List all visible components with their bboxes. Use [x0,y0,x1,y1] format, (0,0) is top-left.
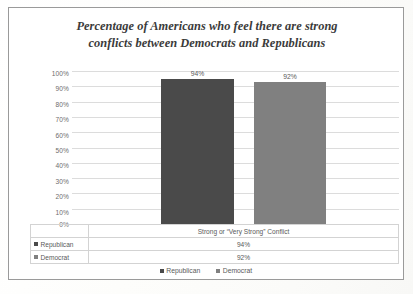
y-tick-label: 90% [29,85,69,92]
gridline [72,163,399,164]
gridline [72,71,399,72]
y-tick-label: 50% [29,147,69,154]
table-value-democrat: 92% [89,251,399,264]
chart-title: Percentage of Americans who feel there a… [39,18,375,52]
gridline [72,178,399,179]
table-row: Republican 94% [31,238,399,251]
y-tick-label: 70% [29,116,69,123]
y-tick-label: 40% [29,162,69,169]
gridline [72,193,399,194]
gridline [72,86,399,87]
y-axis: 100% 90% 80% 70% 60% 50% 40% 30% 20% 10%… [27,70,69,230]
y-tick-label: 30% [29,178,69,185]
legend-label-republican: Republican [166,267,200,274]
table-row-category: Strong or “Very Strong” Conflict [31,225,399,238]
chart-title-line-2: conflicts between Democrats and Republic… [39,35,375,52]
y-tick-label: 80% [29,101,69,108]
table-category-header: Strong or “Very Strong” Conflict [89,225,399,238]
table-rowhead-label: Republican [41,241,74,248]
chart-frame: Percentage of Americans who feel there a… [8,7,404,280]
plot-area: 94% 92% [72,70,399,225]
table-rowhead-democrat: Democrat [31,251,89,264]
gridline [72,132,399,133]
table-corner-cell [31,225,89,238]
data-table: Strong or “Very Strong” Conflict Republi… [30,224,399,264]
gridline [72,102,399,103]
chart-title-line-1: Percentage of Americans who feel there a… [39,18,375,35]
table-rowhead-republican: Republican [31,238,89,251]
table-rowhead-label: Democrat [41,254,70,261]
gridline [72,148,399,149]
bar-label-republican: 94% [161,70,234,77]
gridline [72,117,399,118]
legend-item-republican[interactable]: Republican [160,267,201,274]
legend-swatch-democrat [34,255,38,259]
legend-item-democrat[interactable]: Democrat [216,267,252,274]
legend-marker-democrat [216,269,220,273]
legend-label-democrat: Democrat [223,267,252,274]
y-tick-label: 100% [29,70,69,77]
table-value-republican: 94% [89,238,399,251]
y-tick-label: 20% [29,193,69,200]
gridline [72,209,399,210]
y-tick-label: 60% [29,132,69,139]
chart-page: Percentage of Americans who feel there a… [0,0,413,294]
chart-legend: Republican Democrat [9,267,403,274]
legend-marker-republican [160,269,164,273]
bar-democrat[interactable] [254,82,326,224]
legend-swatch-republican [34,242,38,246]
bar-label-democrat: 92% [254,73,326,80]
y-tick-label: 10% [29,209,69,216]
table-row: Democrat 92% [31,251,399,264]
bar-republican[interactable] [161,79,234,224]
